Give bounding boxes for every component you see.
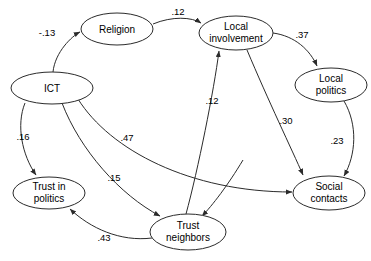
node-label-local-involvement-line1: Local — [224, 21, 248, 32]
edge-path-ict-to-religion — [53, 32, 80, 72]
edge-ict-to-trust-in-politics: .16 — [16, 103, 36, 175]
edge-label-ict-to-trust-in-politics: .16 — [16, 131, 29, 142]
edge-label-trust-neighbors-to-local-involvement: .12 — [205, 95, 218, 106]
node-label-local-politics-line1: Local — [319, 73, 343, 84]
node-label-local-politics-line2: politics — [316, 85, 347, 96]
node-layer: Religion Local involvement ICT Local pol… — [11, 13, 367, 250]
edge-trust-neighbors-to-trust-in-politics: .43 — [70, 209, 152, 243]
node-trust-neighbors[interactable]: Trust neighbors — [150, 214, 226, 250]
edge-path-trust-neighbors-to-local-involvement — [186, 51, 219, 214]
node-label-religion: Religion — [99, 24, 135, 35]
edge-path-religion-to-local-involvement — [153, 18, 201, 24]
node-label-ict: ICT — [44, 83, 60, 94]
node-label-trust-neighbors-line2: neighbors — [166, 232, 210, 243]
edge-path-trust-neighbors-to-trust-in-politics — [70, 209, 152, 239]
edge-label-religion-to-local-involvement: .12 — [171, 6, 184, 17]
node-ict[interactable]: ICT — [11, 72, 93, 104]
edge-label-ict-to-religion: -.13 — [39, 27, 55, 38]
edge-label-ict-to-social-contacts: .47 — [120, 132, 133, 143]
edge-local-involvement-to-local-politics: .37 — [273, 29, 317, 66]
edge-trust-neighbors-to-local-involvement: .12 — [186, 51, 219, 214]
path-diagram-canvas: -.13 .12 .37 .12 .30 — [0, 0, 371, 261]
edge-path-local-involvement-to-social-contacts — [247, 50, 303, 175]
node-social-contacts[interactable]: Social contacts — [293, 176, 365, 210]
node-label-trust-in-politics-line1: Trust in — [33, 181, 66, 192]
node-local-involvement[interactable]: Local involvement — [199, 16, 273, 50]
node-label-social-contacts-line2: contacts — [310, 193, 347, 204]
edge-label-local-involvement-to-social-contacts: .30 — [279, 115, 292, 126]
node-label-social-contacts-line1: Social — [315, 181, 342, 192]
node-label-trust-neighbors-line1: Trust — [177, 220, 200, 231]
edge-local-politics-to-social-contacts: .23 — [330, 101, 353, 176]
edge-ict-to-religion: -.13 — [39, 27, 80, 72]
edge-label-ict-to-trust-neighbors: .15 — [107, 172, 120, 183]
edge-label-trust-neighbors-to-trust-in-politics: .43 — [97, 232, 110, 243]
node-trust-in-politics[interactable]: Trust in politics — [13, 177, 85, 209]
path-diagram-svg: -.13 .12 .37 .12 .30 — [0, 0, 371, 261]
edge-local-involvement-to-social-contacts: .30 — [247, 50, 303, 175]
node-local-politics[interactable]: Local politics — [295, 68, 367, 102]
edge-path-local-politics-to-social-contacts — [344, 101, 354, 176]
edge-religion-to-local-involvement: .12 — [153, 6, 201, 24]
node-label-local-involvement-line2: involvement — [209, 33, 263, 44]
edge-label-local-politics-to-social-contacts: .23 — [330, 135, 343, 146]
edge-label-local-involvement-to-local-politics: .37 — [295, 29, 308, 40]
node-religion[interactable]: Religion — [81, 13, 153, 45]
node-label-trust-in-politics-line2: politics — [34, 193, 65, 204]
